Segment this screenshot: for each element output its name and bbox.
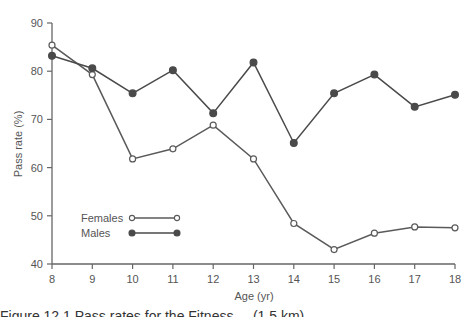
x-tick-label: 9	[89, 273, 95, 285]
data-point	[290, 140, 297, 147]
x-tick-label: 14	[288, 273, 300, 285]
y-tick-label: 40	[31, 258, 43, 270]
legend: FemalesMales	[81, 212, 180, 239]
data-point	[411, 103, 418, 110]
legend-label-females: Females	[81, 212, 124, 224]
line-chart: 40506070809089101112131415161718 Females…	[0, 0, 474, 317]
y-tick-label: 90	[31, 17, 43, 29]
data-point	[210, 110, 217, 117]
y-tick-label: 80	[31, 65, 43, 77]
y-tick-label: 70	[31, 113, 43, 125]
data-point	[452, 91, 459, 98]
x-tick-label: 18	[449, 273, 461, 285]
x-tick-label: 15	[328, 273, 340, 285]
figure-caption: Figure 12.1 Pass rates for the Fitness .…	[0, 307, 474, 317]
data-point	[250, 59, 257, 66]
axes: 40506070809089101112131415161718	[31, 17, 461, 285]
x-axis-label: Age (yr)	[234, 290, 273, 302]
legend-label-males: Males	[81, 227, 111, 239]
data-point	[170, 67, 177, 74]
legend-marker	[129, 230, 135, 236]
data-point	[412, 224, 418, 230]
y-tick-label: 50	[31, 210, 43, 222]
data-point	[331, 247, 337, 253]
data-point	[210, 122, 216, 128]
data-point	[170, 146, 176, 152]
x-tick-label: 17	[409, 273, 421, 285]
legend-marker	[129, 215, 134, 220]
y-tick-label: 60	[31, 162, 43, 174]
data-point	[331, 90, 338, 97]
series-males	[49, 52, 459, 146]
legend-marker	[174, 215, 179, 220]
data-point	[452, 225, 458, 231]
data-point	[371, 230, 377, 236]
y-axis-label: Pass rate (%)	[12, 111, 24, 178]
data-point	[49, 42, 55, 48]
data-point	[129, 90, 136, 97]
data-point	[49, 52, 56, 59]
data-point	[291, 221, 297, 227]
x-tick-label: 13	[247, 273, 259, 285]
x-tick-label: 16	[368, 273, 380, 285]
x-tick-label: 11	[167, 273, 178, 285]
series-line	[52, 56, 455, 143]
x-tick-label: 8	[49, 273, 55, 285]
x-tick-label: 10	[126, 273, 138, 285]
data-point	[251, 156, 257, 162]
data-point	[371, 71, 378, 78]
data-point	[89, 65, 96, 72]
legend-marker	[174, 230, 180, 236]
data-point	[89, 72, 95, 78]
data-point	[130, 156, 136, 162]
x-tick-label: 12	[207, 273, 219, 285]
